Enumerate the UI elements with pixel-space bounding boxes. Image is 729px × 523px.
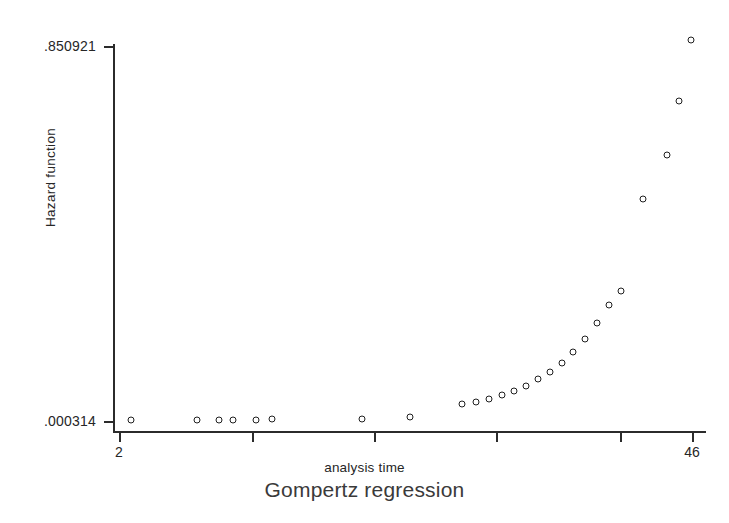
data-point <box>594 320 601 327</box>
data-point <box>407 414 414 421</box>
data-point <box>535 376 542 383</box>
x-axis-tick-label: 46 <box>684 444 700 460</box>
y-axis-tick-bottom <box>104 421 114 423</box>
data-point <box>473 399 480 406</box>
data-point <box>676 98 683 105</box>
data-point <box>618 288 625 295</box>
plot-area <box>0 0 729 523</box>
y-axis-min-label: .000314 <box>44 413 96 429</box>
data-point <box>194 417 201 424</box>
data-point <box>606 302 613 309</box>
y-axis-line <box>113 44 115 433</box>
y-axis-max-label: .850921 <box>44 38 96 54</box>
data-point <box>688 37 695 44</box>
chart-page: .850921 .000314 246 Hazard function anal… <box>0 0 729 523</box>
data-point <box>664 152 671 159</box>
data-point <box>269 416 276 423</box>
data-point <box>486 396 493 403</box>
x-axis-tick-label: 2 <box>115 444 123 460</box>
data-point <box>523 383 530 390</box>
x-axis-tick <box>620 432 622 442</box>
data-point <box>216 417 223 424</box>
y-axis-tick-top <box>104 46 114 48</box>
data-point <box>559 360 566 367</box>
chart-title: Gompertz regression <box>0 478 729 502</box>
x-axis-tick <box>692 432 694 442</box>
y-axis-title: Hazard function <box>43 98 58 258</box>
data-point <box>547 369 554 376</box>
x-axis-line <box>113 431 706 433</box>
x-axis-tick <box>496 432 498 442</box>
data-point <box>511 388 518 395</box>
x-axis-tick <box>374 432 376 442</box>
data-point <box>128 417 135 424</box>
x-axis-tick <box>252 432 254 442</box>
data-point <box>359 416 366 423</box>
data-point <box>230 417 237 424</box>
data-point <box>459 401 466 408</box>
data-point <box>499 392 506 399</box>
data-point <box>570 349 577 356</box>
data-point <box>582 336 589 343</box>
data-point <box>640 196 647 203</box>
x-axis-tick <box>119 432 121 442</box>
data-point <box>253 417 260 424</box>
x-axis-title: analysis time <box>0 460 729 475</box>
